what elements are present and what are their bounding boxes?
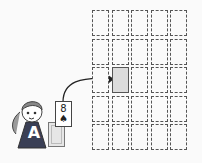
grid-cell [170, 39, 187, 65]
grid-cell [131, 10, 148, 36]
grid-cell [92, 67, 109, 93]
grid-cell [112, 67, 129, 93]
grid-cell [170, 124, 187, 150]
grid-cell [170, 96, 187, 122]
grid-cell [131, 67, 148, 93]
grid-cell [151, 67, 168, 93]
card-grid [92, 10, 188, 150]
grid-cell [92, 10, 109, 36]
grid-cell [112, 96, 129, 122]
grid-cell [92, 39, 109, 65]
spade-icon: ♠ [56, 114, 71, 124]
grid-cell [151, 39, 168, 65]
playing-card: 8 ♠ [55, 101, 72, 127]
grid-cell [92, 96, 109, 122]
grid-cell [131, 124, 148, 150]
grid-cell [131, 39, 148, 65]
grid-cell [170, 10, 187, 36]
grid-cell [92, 124, 109, 150]
grid-cell [112, 124, 129, 150]
grid-cell [112, 39, 129, 65]
grid-cell [151, 10, 168, 36]
grid-cell [112, 10, 129, 36]
grid-cell [170, 67, 187, 93]
grid-cell [151, 96, 168, 122]
grid-cell [131, 96, 148, 122]
player-label: A [24, 124, 44, 142]
grid-cell [151, 124, 168, 150]
